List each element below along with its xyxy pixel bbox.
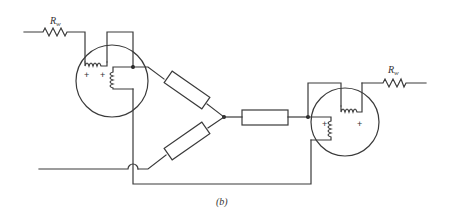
bottom-input-wire: [39, 164, 138, 169]
right-wire-resistor: [362, 79, 426, 87]
left-field-coil: [85, 62, 107, 66]
upper-lead: [133, 67, 164, 79]
upper-diagonal-resistor: [164, 71, 210, 109]
upper-to-center: [207, 104, 224, 117]
left-plus-2: +: [100, 70, 105, 80]
right-field-coil: [341, 83, 362, 112]
left-armature-coil: [110, 67, 133, 89]
figure-caption: (b): [216, 196, 228, 208]
circuit-diagram: Rw + + + + Rw: [0, 0, 449, 215]
left-plus-1: +: [84, 70, 89, 80]
left-rw-label: Rw: [49, 15, 61, 28]
return-wire: [133, 89, 311, 184]
right-machine: [308, 83, 379, 156]
lower-diagonal-resistor: [164, 122, 210, 160]
right-rw-label: Rw: [387, 64, 399, 77]
lower-lead: [138, 155, 166, 169]
left-machine: [76, 45, 148, 117]
left-wire-resistor: [24, 28, 85, 62]
horizontal-resistor: [242, 110, 288, 125]
right-plus-1: +: [322, 119, 327, 129]
right-plus-2: +: [357, 119, 362, 129]
